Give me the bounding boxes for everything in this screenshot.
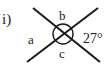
angle-label-c: c — [59, 47, 65, 60]
angle-label-b: b — [59, 9, 66, 22]
angle-label-given: 27° — [83, 32, 103, 46]
angle-label-a: a — [28, 33, 34, 46]
part-label: i) — [2, 12, 11, 27]
